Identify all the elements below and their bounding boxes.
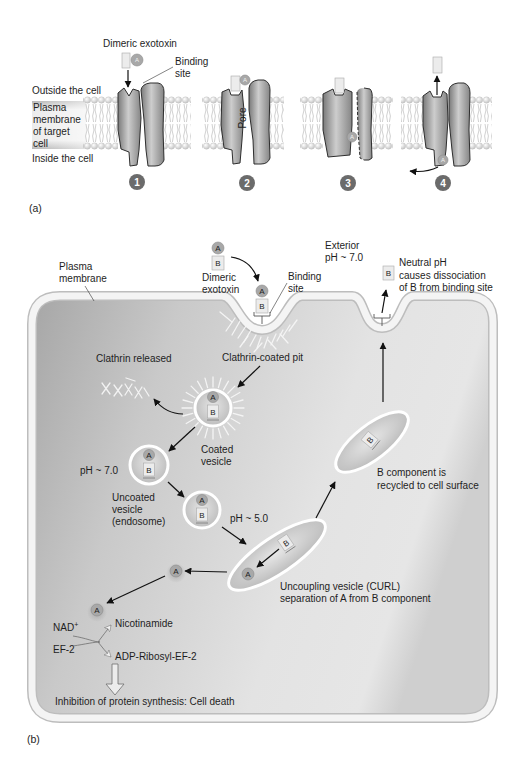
neutral-ph-label-line3: of B from binding site bbox=[399, 282, 493, 293]
ef2-label: EF-2 bbox=[53, 644, 75, 655]
b-component bbox=[335, 78, 344, 93]
clathrin-coated-pit-label: Clathrin-coated pit bbox=[222, 352, 303, 363]
curl-label-line2: separation of A from B component bbox=[280, 593, 431, 604]
active-a-component: A bbox=[87, 602, 107, 622]
uncoated-vesicle-label-line1: Uncoated bbox=[112, 492, 155, 503]
a-letter: A bbox=[441, 157, 445, 163]
plasma-membrane-label-line2: membrane bbox=[59, 273, 107, 284]
released-b-component bbox=[433, 57, 442, 73]
panel-a-label: (a) bbox=[29, 202, 42, 214]
coated-vesicle-label-line2: vesicle bbox=[201, 456, 232, 467]
membrane-label-line4: cell bbox=[33, 138, 48, 149]
binding-site-leader-line bbox=[143, 67, 173, 83]
free-exotoxin: A bbox=[122, 53, 143, 68]
pore-label: Pore bbox=[237, 107, 248, 129]
membrane-label-line2: membrane bbox=[33, 114, 81, 125]
free-a-component: A bbox=[166, 563, 186, 583]
outcome-label: Inhibition of protein synthesis: Cell de… bbox=[55, 696, 235, 707]
adp-ribosyl-ef2-label: ADP-Ribosyl-EF-2 bbox=[115, 651, 197, 662]
uncoated-vesicle-label-line2: vesicle bbox=[112, 504, 143, 515]
svg-text:1: 1 bbox=[134, 177, 140, 188]
a-letter: A bbox=[199, 496, 205, 505]
panel-b: Plasma membrane A B Dimeric exotoxin bbox=[27, 240, 493, 745]
svg-text:2: 2 bbox=[244, 178, 250, 189]
b-letter: B bbox=[215, 259, 220, 268]
a-letter: A bbox=[146, 451, 152, 460]
plasma-membrane-label: Plasma membrane of target cell bbox=[32, 101, 86, 149]
receptor-step-3: A bbox=[323, 78, 372, 160]
a-letter: A bbox=[135, 57, 139, 63]
b-letter: B bbox=[199, 511, 204, 520]
coated-vesicle-label-line1: Coated bbox=[201, 444, 233, 455]
neutral-ph-label-line2: causes dissociation bbox=[399, 270, 486, 281]
a-letter: A bbox=[215, 244, 221, 253]
panel-a: Dimeric exotoxin A Binding site Outside … bbox=[29, 38, 492, 214]
svg-text:3: 3 bbox=[345, 178, 351, 189]
b-component bbox=[122, 53, 130, 68]
b-component bbox=[231, 76, 240, 91]
a-letter: A bbox=[173, 567, 179, 576]
membrane-label-line3: of target bbox=[33, 126, 70, 137]
b-recycled-label-line1: B component is bbox=[377, 467, 446, 478]
plasma-membrane-label-line1: Plasma bbox=[59, 261, 93, 272]
b-recycled-label-line2: recycled to cell surface bbox=[377, 480, 479, 491]
dimeric-exotoxin-label: Dimeric exotoxin bbox=[103, 38, 177, 49]
dimeric-label: Dimeric bbox=[202, 272, 236, 283]
a-letter: A bbox=[259, 287, 265, 296]
inside-cell-label: Inside the cell bbox=[32, 153, 93, 164]
bound-exotoxin: A B bbox=[254, 285, 270, 324]
binding-site-label-line1: Binding bbox=[175, 56, 208, 67]
exterior-label: Exterior bbox=[325, 240, 360, 251]
exterior-ph-label: pH ~ 7.0 bbox=[325, 252, 364, 263]
exotoxin-figure: Dimeric exotoxin A Binding site Outside … bbox=[0, 0, 522, 767]
b-letter: B bbox=[146, 466, 151, 475]
b-letter: B bbox=[386, 269, 391, 278]
exotoxin-label: exotoxin bbox=[202, 284, 239, 295]
a-entry-arrow bbox=[410, 167, 438, 172]
neutral-ph-label-line1: Neutral pH bbox=[399, 257, 447, 268]
step-badge-1: 1 bbox=[129, 174, 145, 190]
step-badge-4: 4 bbox=[435, 175, 451, 191]
a-letter: A bbox=[94, 606, 100, 615]
uncoated-vesicle-ph7: A B bbox=[130, 446, 168, 484]
b-letter: B bbox=[259, 302, 264, 311]
uncoated-vesicle-label-line3: (endosome) bbox=[112, 516, 165, 527]
binding-site-receptor bbox=[254, 312, 270, 324]
receptor-step-1 bbox=[118, 83, 164, 166]
binding-site-label-line1: Binding bbox=[288, 271, 321, 282]
diagram-canvas: Dimeric exotoxin A Binding site Outside … bbox=[0, 0, 522, 767]
curl-label-line1: Uncoupling vesicle (CURL) bbox=[280, 581, 400, 592]
b-release-site: B bbox=[374, 266, 394, 326]
svg-text:4: 4 bbox=[440, 178, 446, 189]
step-badge-3: 3 bbox=[340, 175, 356, 191]
endosome-ph5: A B bbox=[184, 492, 220, 528]
step-badge-2: 2 bbox=[239, 175, 255, 191]
ph-5-label: pH ~ 5.0 bbox=[230, 513, 269, 524]
free-dimeric-exotoxin: A B bbox=[212, 242, 224, 270]
a-letter: A bbox=[210, 393, 216, 402]
membrane-label-line1: Plasma bbox=[33, 102, 67, 113]
dissociation-arrow bbox=[382, 290, 386, 313]
a-letter: A bbox=[245, 570, 251, 579]
a-letter: A bbox=[350, 134, 354, 140]
panel-b-label: (b) bbox=[27, 733, 40, 745]
outside-cell-label: Outside the cell bbox=[32, 85, 101, 96]
binding-site-label-line2: site bbox=[175, 68, 191, 79]
ph-7-label: pH ~ 7.0 bbox=[80, 465, 119, 476]
clathrin-released-label: Clathrin released bbox=[96, 353, 172, 364]
step-badges: 1 2 3 4 bbox=[129, 174, 451, 191]
receptor-step-2: A Pore bbox=[221, 75, 270, 164]
a-letter: A bbox=[243, 77, 247, 83]
binding-site-label-line2: site bbox=[288, 283, 304, 294]
b-letter: B bbox=[210, 408, 215, 417]
nicotinamide-label: Nicotinamide bbox=[115, 618, 173, 629]
